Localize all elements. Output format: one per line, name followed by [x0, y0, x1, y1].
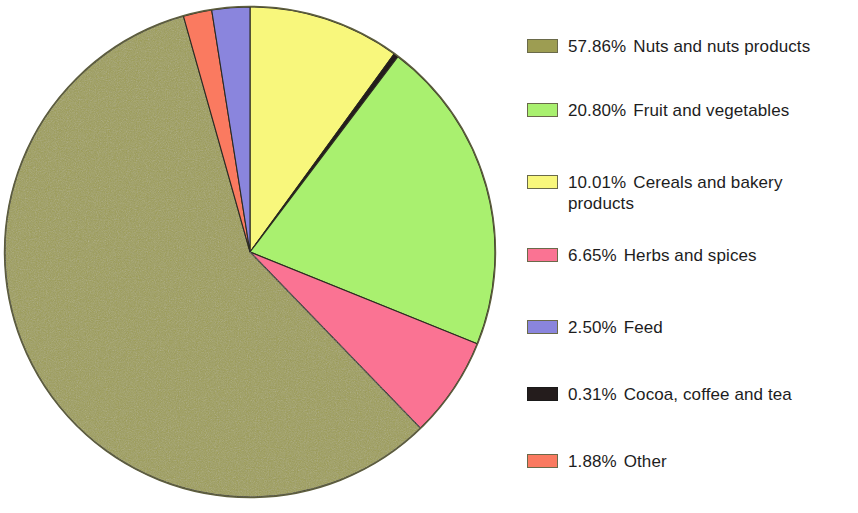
legend-item[interactable]: 0.31%Cocoa, coffee and tea — [527, 384, 792, 405]
legend-item[interactable]: 1.88%Other — [527, 451, 667, 472]
legend-swatch — [527, 175, 558, 189]
chart-legend: 57.86%Nuts and nuts products20.80%Fruit … — [527, 0, 858, 513]
legend-swatch — [527, 103, 558, 117]
legend-label: 6.65%Herbs and spices — [568, 245, 757, 266]
legend-percent: 2.50% — [568, 318, 617, 337]
legend-label: 20.80%Fruit and vegetables — [568, 100, 789, 121]
legend-category-name: Nuts and nuts products — [633, 37, 810, 56]
legend-percent: 1.88% — [568, 452, 617, 471]
legend-item[interactable]: 10.01%Cereals and bakery products — [527, 172, 782, 214]
legend-category-name: Herbs and spices — [624, 246, 757, 265]
pie-chart-svg — [3, 5, 497, 499]
legend-category-name: Cocoa, coffee and tea — [624, 385, 792, 404]
legend-label: 1.88%Other — [568, 451, 667, 472]
legend-label: 57.86%Nuts and nuts products — [568, 36, 810, 57]
pie-chart-area — [3, 5, 497, 499]
legend-percent: 57.86% — [568, 37, 626, 56]
pie-chart-figure: 57.86%Nuts and nuts products20.80%Fruit … — [0, 0, 858, 513]
legend-swatch — [527, 248, 558, 262]
legend-item[interactable]: 20.80%Fruit and vegetables — [527, 100, 789, 121]
legend-swatch — [527, 320, 558, 334]
legend-percent: 20.80% — [568, 101, 626, 120]
legend-percent: 10.01% — [568, 173, 626, 192]
legend-item[interactable]: 57.86%Nuts and nuts products — [527, 36, 810, 57]
legend-label: 0.31%Cocoa, coffee and tea — [568, 384, 792, 405]
legend-swatch — [527, 39, 558, 53]
legend-label: 2.50%Feed — [568, 317, 663, 338]
legend-item[interactable]: 2.50%Feed — [527, 317, 663, 338]
legend-category-name: Other — [624, 452, 667, 471]
legend-swatch — [527, 387, 558, 401]
pie-slices-group — [5, 7, 495, 497]
legend-percent: 6.65% — [568, 246, 617, 265]
legend-category-name: Feed — [624, 318, 663, 337]
legend-item[interactable]: 6.65%Herbs and spices — [527, 245, 757, 266]
legend-swatch — [527, 454, 558, 468]
legend-label: 10.01%Cereals and bakery products — [568, 172, 782, 214]
legend-category-name: Fruit and vegetables — [633, 101, 789, 120]
legend-percent: 0.31% — [568, 385, 617, 404]
